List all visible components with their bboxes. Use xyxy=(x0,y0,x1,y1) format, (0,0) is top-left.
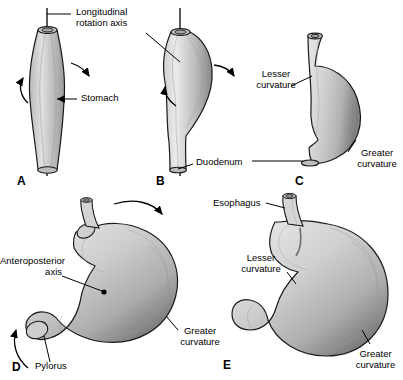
label-line: rotation axis xyxy=(76,17,127,28)
label-line: axis xyxy=(45,266,62,277)
label-greater-curvature-e: Greatercurvature xyxy=(348,348,403,370)
figure-canvas: Longitudinalrotation axis Stomach Duoden… xyxy=(0,0,403,380)
label-esophagus: Esophagus xyxy=(213,197,261,208)
panel-e-illustration xyxy=(232,193,388,356)
label-line: curvature xyxy=(356,359,396,370)
panel-b-illustration xyxy=(164,8,234,176)
label-line: Lesser xyxy=(247,252,276,263)
label-duodenum: Duodenum xyxy=(196,156,242,167)
label-lesser-curvature-c: Lessercurvature xyxy=(250,68,302,90)
label-line: Anteroposterior xyxy=(0,255,65,266)
panel-letter-b: B xyxy=(156,174,165,188)
label-greater-curvature-c: Greatercurvature xyxy=(350,147,403,169)
label-greater-curvature-d: Greatercurvature xyxy=(173,325,227,347)
anatomy-illustration xyxy=(0,0,403,380)
panel-letter-a: A xyxy=(17,174,26,188)
label-line: Greater xyxy=(361,147,393,158)
label-longitudinal-rotation-axis: Longitudinalrotation axis xyxy=(76,6,127,28)
label-line: Greater xyxy=(184,325,216,336)
label-line: Longitudinal xyxy=(76,6,127,17)
label-line: curvature xyxy=(256,79,296,90)
label-anteroposterior-axis: Anteroposterioraxis xyxy=(0,255,62,277)
panel-letter-e: E xyxy=(223,358,231,372)
label-line: curvature xyxy=(357,158,397,169)
label-line: Greater xyxy=(359,348,391,359)
label-line: curvature xyxy=(241,263,281,274)
label-line: Lesser xyxy=(262,68,291,79)
label-pylorus: Pylorus xyxy=(35,360,67,371)
panel-a-illustration xyxy=(21,8,89,176)
panel-d-illustration xyxy=(15,198,178,368)
panel-letter-d: D xyxy=(12,360,21,374)
panel-letter-c: C xyxy=(295,174,304,188)
label-stomach: Stomach xyxy=(81,92,119,103)
label-lesser-curvature-e: Lessercurvature xyxy=(234,252,288,274)
label-line: curvature xyxy=(180,336,220,347)
